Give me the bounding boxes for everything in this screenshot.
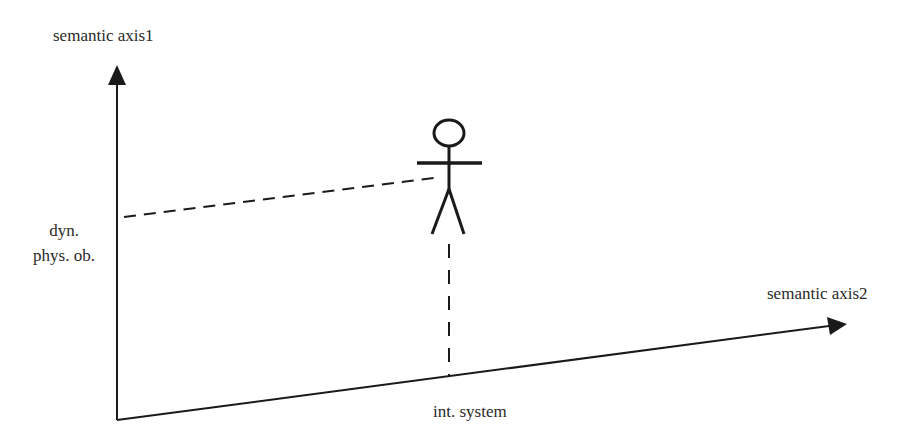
y-mark-label-line1: dyn.	[33, 218, 95, 243]
x-axis-label: semantic axis2	[767, 285, 868, 302]
y-mark-label: dyn. phys. ob.	[33, 218, 95, 268]
y-mark-label-line2: phys. ob.	[33, 243, 95, 268]
y-axis-arrow-icon	[108, 65, 126, 85]
left-leg	[432, 189, 449, 234]
semantic-axes-diagram	[0, 0, 917, 446]
right-leg	[449, 189, 464, 234]
y-projection-dashed-line	[124, 178, 434, 217]
x-axis-arrow-icon	[827, 317, 847, 335]
head	[434, 120, 464, 146]
stick-figure-icon	[417, 120, 482, 234]
y-axis-label: semantic axis1	[53, 27, 154, 44]
y-axis	[108, 65, 126, 420]
x-mark-label: int. system	[433, 403, 507, 420]
